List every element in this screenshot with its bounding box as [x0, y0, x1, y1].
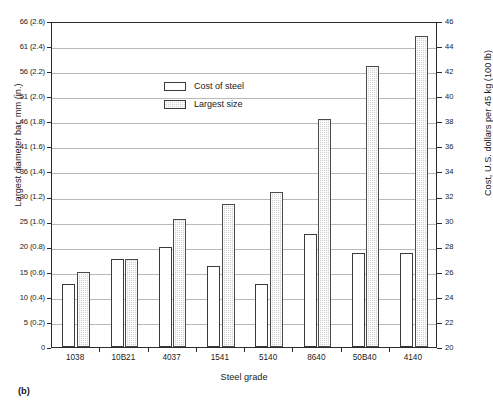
- y-axis-tick-left: [47, 348, 51, 349]
- y-axis-tick-label-left: 61 (2.4): [0, 43, 45, 51]
- y-axis-tick-right: [437, 323, 442, 324]
- legend-item-largest-size: Largest size: [164, 95, 284, 113]
- y-axis-tick-right: [437, 298, 442, 299]
- legend: Cost of steel Largest size: [164, 77, 284, 113]
- bar-cost-of-steel: [400, 253, 413, 347]
- bar-cost-of-steel: [255, 284, 268, 347]
- plot-area: Cost of steel Largest size: [51, 22, 437, 348]
- x-axis-tick-label: 4140: [386, 353, 440, 362]
- x-axis-tick: [292, 348, 293, 352]
- bar-largest-size: [366, 66, 379, 347]
- y-axis-tick-label-right: 34: [445, 168, 467, 176]
- bar-cost-of-steel: [352, 253, 365, 347]
- y-axis-tick-label-right: 26: [445, 269, 467, 277]
- bar-cost-of-steel: [111, 259, 124, 347]
- y-axis-tick-label-right: 38: [445, 118, 467, 126]
- bar-largest-size: [125, 259, 138, 347]
- x-axis-tick-label: 5140: [241, 353, 295, 362]
- x-axis-label: Steel grade: [51, 372, 437, 382]
- y-axis-tick-right: [437, 22, 442, 23]
- y-axis-tick-label-right: 32: [445, 193, 467, 201]
- y-axis-tick-right: [437, 97, 442, 98]
- y-axis-tick-label-right: 44: [445, 43, 467, 51]
- y-axis-tick-label-right: 36: [445, 143, 467, 151]
- y-axis-tick-label-left: 0: [0, 344, 45, 352]
- x-axis-tick-label: 10B21: [96, 353, 150, 362]
- y-axis-tick-right: [437, 47, 442, 48]
- bar-largest-size: [415, 36, 428, 347]
- y-axis-tick-label-right: 42: [445, 68, 467, 76]
- x-axis-tick: [389, 348, 390, 352]
- x-axis-tick: [196, 348, 197, 352]
- x-axis-tick-label: 4037: [145, 353, 199, 362]
- y-axis-tick-label-right: 28: [445, 243, 467, 251]
- bar-cost-of-steel: [62, 284, 75, 347]
- x-axis-tick-label: 1038: [48, 353, 102, 362]
- bar-largest-size: [77, 272, 90, 347]
- y-axis-tick-label-left: 46 (1.8): [0, 118, 45, 126]
- legend-swatch-largest-size: [164, 100, 186, 109]
- y-axis-tick-right: [437, 122, 442, 123]
- y-axis-tick-label-left: 30 (1.2): [0, 193, 45, 201]
- y-axis-tick-right: [437, 273, 442, 274]
- bar-cost-of-steel: [159, 247, 172, 347]
- y-axis-tick-label-left: 15 (0.6): [0, 269, 45, 277]
- x-axis-tick: [148, 348, 149, 352]
- y-axis-tick-label-right: 40: [445, 93, 467, 101]
- y-axis-tick-label-right: 20: [445, 344, 467, 352]
- y-axis-tick-right: [437, 248, 442, 249]
- y-axis-tick-label-left: 41 (1.6): [0, 143, 45, 151]
- x-axis-tick: [99, 348, 100, 352]
- y-axis-tick-label-right: 22: [445, 319, 467, 327]
- legend-label-largest-size: Largest size: [194, 99, 243, 109]
- y-axis-tick-label-right: 24: [445, 294, 467, 302]
- bar-largest-size: [173, 219, 186, 347]
- y-axis-tick-label-left: 20 (0.8): [0, 243, 45, 251]
- y-axis-tick-label-left: 66 (2.6): [0, 18, 45, 26]
- legend-label-cost-of-steel: Cost of steel: [194, 81, 244, 91]
- legend-swatch-cost-of-steel: [164, 82, 186, 91]
- y-axis-tick-right: [437, 198, 442, 199]
- y-axis-tick-label-left: 25 (1.0): [0, 218, 45, 226]
- bar-cost-of-steel: [304, 234, 317, 347]
- bar-largest-size: [270, 192, 283, 347]
- x-axis-tick: [244, 348, 245, 352]
- y-axis-tick-right: [437, 348, 442, 349]
- y-axis-tick-right: [437, 72, 442, 73]
- legend-item-cost-of-steel: Cost of steel: [164, 77, 284, 95]
- y-axis-tick-right: [437, 172, 442, 173]
- y-axis-tick-label-left: 56 (2.2): [0, 68, 45, 76]
- y-axis-tick-right: [437, 147, 442, 148]
- y-axis-tick-label-right: 46: [445, 18, 467, 26]
- y-axis-tick-label-left: 10 (0.4): [0, 294, 45, 302]
- y-axis-tick-label-left: 5 (0.2): [0, 319, 45, 327]
- y-axis-tick-label-left: 51 (2.0): [0, 93, 45, 101]
- x-axis-tick-label: 50B40: [338, 353, 392, 362]
- y-axis-tick-label-right: 30: [445, 218, 467, 226]
- y-axis-label-right: Cost, U.S. dollars per 45 kg (100 lb): [483, 13, 493, 233]
- bar-largest-size: [222, 204, 235, 347]
- x-axis-tick-label: 1541: [193, 353, 247, 362]
- x-axis-tick-label: 8640: [289, 353, 343, 362]
- panel-caption: (b): [18, 385, 30, 396]
- gridline: [52, 48, 436, 49]
- bar-largest-size: [318, 119, 331, 347]
- y-axis-tick-label-left: 36 (1.4): [0, 168, 45, 176]
- x-axis-tick: [341, 348, 342, 352]
- bar-cost-of-steel: [207, 266, 220, 348]
- y-axis-tick-right: [437, 223, 442, 224]
